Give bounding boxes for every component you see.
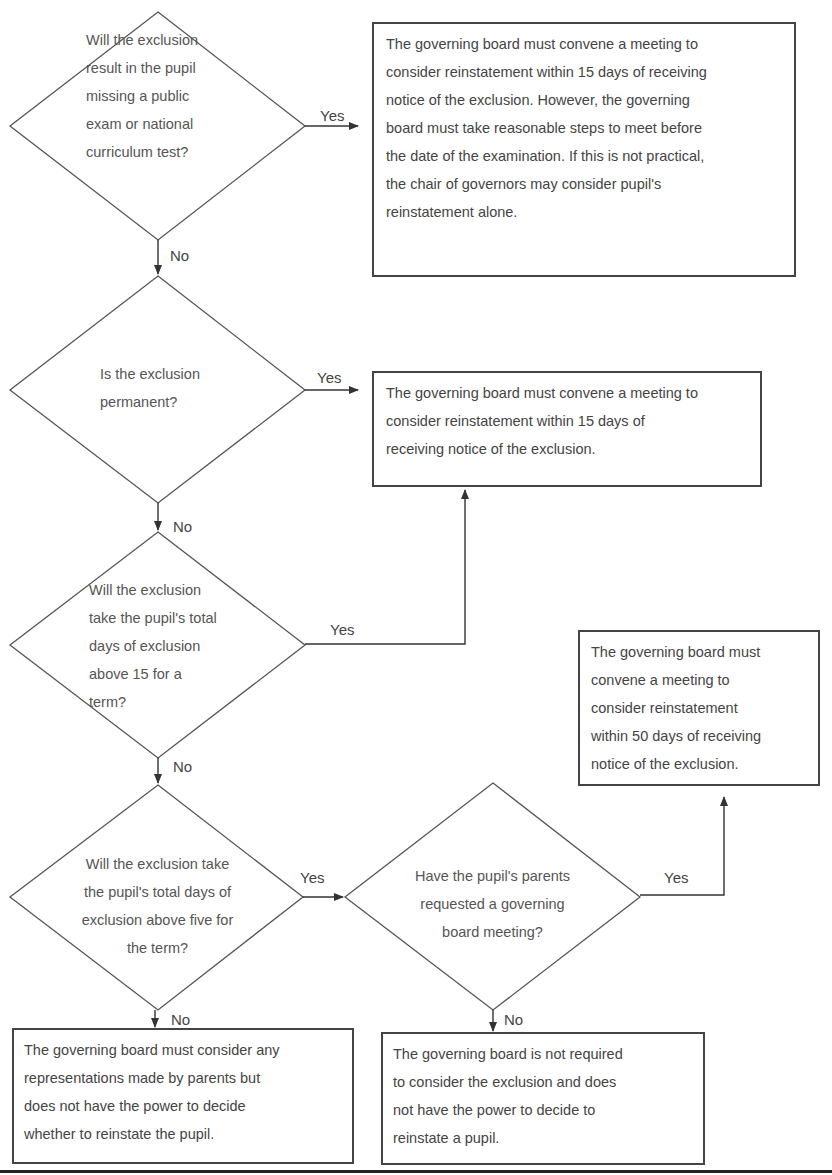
edge-label-d2-yes: Yes: [317, 369, 341, 386]
decision-5-line: Have the pupil's parents: [395, 862, 590, 890]
decision-3-line: days of exclusion: [89, 632, 259, 660]
outcome-1-line: notice of the exclusion. However, the go…: [386, 86, 794, 114]
connector-d3-yes: [305, 490, 465, 644]
outcome-4-line: does not have the power to decide: [24, 1092, 352, 1120]
decision-1-line: exam or national: [86, 110, 236, 138]
decision-4-line: Will the exclusion take: [60, 850, 255, 878]
outcome-2-line: The governing board must convene a meeti…: [386, 379, 760, 407]
decision-1-line: Will the exclusion: [86, 26, 236, 54]
edge-label-d1-no: No: [170, 247, 189, 264]
outcome-3-line: convene a meeting to: [591, 666, 818, 694]
decision-4-line: the term?: [60, 934, 255, 962]
decision-5-line: requested a governing: [395, 890, 590, 918]
decision-5-line: board meeting?: [395, 918, 590, 946]
decision-2-line: permanent?: [100, 388, 240, 416]
outcome-4-line: whether to reinstate the pupil.: [24, 1120, 352, 1148]
outcome-box-4: The governing board must consider any re…: [12, 1028, 354, 1164]
outcome-box-3: The governing board must convene a meeti…: [578, 630, 820, 786]
edge-label-d4-yes: Yes: [300, 869, 324, 886]
outcome-3-text: The governing board must convene a meeti…: [580, 632, 818, 778]
decision-4-text: Will the exclusion take the pupil's tota…: [60, 850, 255, 962]
decision-3-line: take the pupil's total: [89, 604, 259, 632]
outcome-4-line: representations made by parents but: [24, 1064, 352, 1092]
decision-3-line: term?: [89, 688, 259, 716]
outcome-3-line: consider reinstatement: [591, 694, 818, 722]
edge-label-d4-no: No: [171, 1011, 190, 1028]
outcome-3-line: The governing board must: [591, 638, 818, 666]
outcome-3-line: within 50 days of receiving: [591, 722, 818, 750]
edge-label-d3-no: No: [173, 758, 192, 775]
decision-5-text: Have the pupil's parents requested a gov…: [395, 862, 590, 946]
decision-3-line: Will the exclusion: [89, 576, 259, 604]
decision-2-line: Is the exclusion: [100, 360, 240, 388]
outcome-5-line: not have the power to decide to: [393, 1096, 703, 1124]
outcome-1-line: reinstatement alone.: [386, 198, 794, 226]
edge-label-d5-yes: Yes: [664, 869, 688, 886]
decision-4-line: exclusion above five for: [60, 906, 255, 934]
outcome-3-line: notice of the exclusion.: [591, 750, 818, 778]
edge-label-d3-yes: Yes: [330, 621, 354, 638]
decision-4-line: the pupil's total days of: [60, 878, 255, 906]
edge-label-d5-no: No: [504, 1011, 523, 1028]
decision-1-text: Will the exclusion result in the pupil m…: [86, 26, 236, 166]
decision-1-line: missing a public: [86, 82, 236, 110]
decision-2-text: Is the exclusion permanent?: [100, 360, 240, 416]
outcome-box-5: The governing board is not required to c…: [381, 1032, 705, 1165]
decision-1-line: curriculum test?: [86, 138, 236, 166]
outcome-box-1: The governing board must convene a meeti…: [372, 22, 796, 277]
outcome-1-line: board must take reasonable steps to meet…: [386, 114, 794, 142]
outcome-5-line: to consider the exclusion and does: [393, 1068, 703, 1096]
outcome-5-line: reinstate a pupil.: [393, 1124, 703, 1152]
outcome-5-text: The governing board is not required to c…: [383, 1034, 703, 1152]
decision-3-line: above 15 for a: [89, 660, 259, 688]
outcome-4-text: The governing board must consider any re…: [14, 1030, 352, 1148]
outcome-2-line: receiving notice of the exclusion.: [386, 435, 760, 463]
outcome-2-text: The governing board must convene a meeti…: [374, 373, 760, 463]
edge-label-d1-yes: Yes: [320, 107, 344, 124]
bottom-rule: [0, 1170, 832, 1173]
outcome-1-line: the chair of governors may consider pupi…: [386, 170, 794, 198]
edge-label-d2-no: No: [173, 518, 192, 535]
outcome-1-line: consider reinstatement within 15 days of…: [386, 58, 794, 86]
outcome-box-2: The governing board must convene a meeti…: [372, 371, 762, 487]
outcome-4-line: The governing board must consider any: [24, 1036, 352, 1064]
outcome-5-line: The governing board is not required: [393, 1040, 703, 1068]
outcome-1-line: The governing board must convene a meeti…: [386, 30, 794, 58]
decision-1-line: result in the pupil: [86, 54, 236, 82]
outcome-1-line: the date of the examination. If this is …: [386, 142, 794, 170]
outcome-2-line: consider reinstatement within 15 days of: [386, 407, 760, 435]
decision-3-text: Will the exclusion take the pupil's tota…: [89, 576, 259, 716]
outcome-1-text: The governing board must convene a meeti…: [374, 24, 794, 226]
